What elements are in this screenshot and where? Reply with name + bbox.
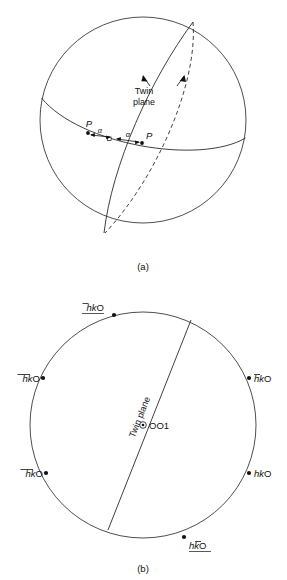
twin-plane-label: Twin plane [127, 395, 152, 439]
panel-a-caption: (a) [137, 261, 149, 272]
pole-right-lower: hkO [247, 468, 272, 479]
twin-plane-label-line2: plane [133, 97, 155, 107]
pole-dot-top [112, 313, 116, 317]
pole-dot-left [86, 131, 90, 135]
pole-left-label: P [86, 118, 93, 129]
pole-right-upper: hkO [247, 373, 272, 384]
pole-top-label: hkO [87, 302, 104, 313]
pole-dot-right [140, 141, 144, 145]
angle-left-label: α [98, 126, 103, 135]
panel-a-stereographic-sphere: Twin plane P P α α (a) [0, 0, 287, 290]
figure-root: Twin plane P P α α (a) [0, 0, 287, 580]
pole-dot-right-lower [247, 471, 251, 475]
pole-right-lower-label: hkO [254, 468, 271, 479]
twin-plane-leader-solid [141, 75, 150, 86]
panel-b-caption: (b) [137, 563, 149, 574]
pole-right-label: P [146, 130, 153, 141]
twin-plane-leader-dashed [177, 75, 186, 86]
pole-left-lower: hkO [21, 468, 49, 479]
pole-bottom: hkO [182, 535, 211, 552]
angle-right-label: α [126, 130, 131, 139]
center-pole-label: OO1 [149, 420, 169, 431]
pole-dot-bottom [182, 535, 186, 539]
pole-dot-right-upper [247, 376, 251, 380]
sphere-outline [40, 17, 246, 223]
panel-b-stereogram: Twin plane OO1 hkO hkO [0, 290, 287, 580]
twin-plane-great-circle-solid [104, 22, 193, 233]
pole-dot-left-upper [41, 376, 45, 380]
pole-top: hkO [82, 302, 116, 317]
twin-plane-great-circle-dashed [105, 22, 193, 233]
twin-plane-label-line1: Twin [135, 86, 154, 96]
pole-dot-left-lower [44, 471, 48, 475]
pole-left-upper: hkO [18, 373, 46, 384]
